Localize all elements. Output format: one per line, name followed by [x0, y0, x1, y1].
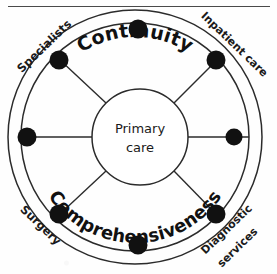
node-n — [129, 20, 148, 39]
node-s — [129, 236, 148, 255]
node-w — [18, 128, 37, 147]
centre-circle — [92, 89, 188, 185]
node-nw — [50, 51, 69, 70]
centre-label-line1: Primary — [115, 121, 166, 136]
spoke-nw — [60, 60, 106, 103]
node-se — [207, 205, 226, 224]
diagram-canvas: Primary care Continuity Comprehensivenes… — [0, 0, 277, 274]
node-sw — [50, 205, 69, 224]
node-e — [226, 129, 243, 146]
outer-label-inpatient-care: Inpatient care — [198, 9, 270, 79]
primary-care-hub-diagram: Primary care Continuity Comprehensivenes… — [0, 0, 277, 274]
spoke-ne — [174, 62, 215, 103]
centre-label-line2: care — [126, 140, 154, 155]
node-ne — [207, 51, 226, 70]
